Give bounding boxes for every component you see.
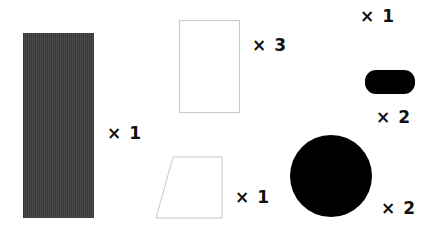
outlined-trapezoid (156, 157, 222, 218)
multiplier-label-circle: × 2 (381, 198, 416, 218)
black-pill (365, 70, 415, 94)
multiplier-label-top-right: × 1 (360, 6, 395, 26)
multiplier-label-trapezoid: × 1 (235, 187, 270, 207)
outlined-rectangle (180, 21, 240, 113)
tall-dark-rectangle (23, 33, 94, 218)
black-circle (290, 135, 372, 217)
multiplier-label-outlined-rectangle: × 3 (252, 35, 287, 55)
shapes-canvas (0, 0, 429, 233)
multiplier-label-tall-rectangle: × 1 (107, 123, 142, 143)
multiplier-label-pill: × 2 (376, 107, 411, 127)
